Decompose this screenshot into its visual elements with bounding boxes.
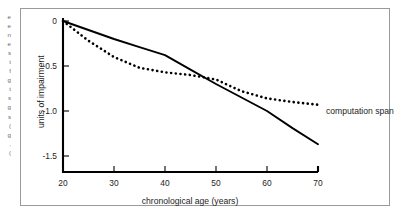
x-tick-label-40: 40 bbox=[160, 178, 169, 188]
x-tick-label-20: 20 bbox=[58, 178, 67, 188]
axis-lines bbox=[63, 18, 318, 172]
x-tick-label-60: 60 bbox=[262, 178, 271, 188]
y-tick-label-neg15: -1.5 bbox=[32, 151, 57, 161]
computation-span-series-label: computation span bbox=[326, 106, 394, 116]
x-axis-title: chronological age (years) bbox=[142, 196, 239, 206]
x-tick-label-30: 30 bbox=[109, 178, 118, 188]
x-tick-label-50: 50 bbox=[211, 178, 220, 188]
chart-series bbox=[63, 21, 318, 144]
x-tick-label-70: 70 bbox=[313, 178, 322, 188]
chart-axes bbox=[63, 18, 318, 172]
y-axis-title: units of impairment bbox=[36, 55, 46, 128]
solid-series bbox=[63, 21, 318, 144]
y-tick-label-0: 0 bbox=[38, 16, 57, 26]
